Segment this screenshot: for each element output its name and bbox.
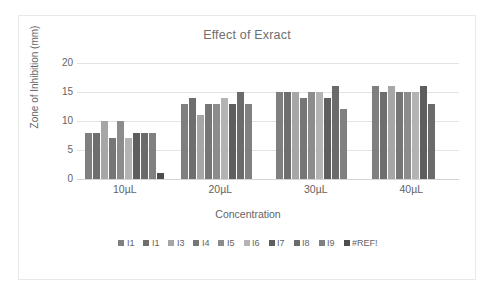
y-axis-tick: 5 bbox=[67, 145, 73, 155]
bar[interactable] bbox=[93, 133, 100, 179]
legend-swatch-icon bbox=[143, 240, 149, 246]
legend-label: #REF! bbox=[352, 238, 378, 248]
legend-item[interactable]: I1 bbox=[118, 238, 134, 248]
bar-groups bbox=[77, 63, 459, 179]
x-axis-tick: 20µL bbox=[173, 183, 269, 195]
bar[interactable] bbox=[396, 92, 403, 179]
legend-swatch-icon bbox=[193, 240, 199, 246]
bar[interactable] bbox=[149, 133, 156, 179]
bar[interactable] bbox=[181, 104, 188, 179]
bar[interactable] bbox=[324, 98, 331, 179]
legend-label: I8 bbox=[302, 238, 310, 248]
bar-group bbox=[77, 63, 173, 179]
bar[interactable] bbox=[388, 86, 395, 179]
chart-frame: Effect of Exract Zone of Inhibition (mm)… bbox=[18, 15, 476, 280]
x-axis-tick: 30µL bbox=[268, 183, 364, 195]
bar[interactable] bbox=[380, 92, 387, 179]
chart-legend: I1I1I3I4I5I6I7I8I9#REF! bbox=[19, 238, 477, 248]
legend-label: I3 bbox=[177, 238, 185, 248]
bar[interactable] bbox=[221, 98, 228, 179]
plot-wrapper: Zone of Inhibition (mm) 05101520 10µL20µ… bbox=[19, 16, 477, 281]
bar[interactable] bbox=[300, 98, 307, 179]
bar[interactable] bbox=[404, 92, 411, 179]
y-axis-tick-labels: 05101520 bbox=[49, 63, 75, 179]
bar-group bbox=[268, 63, 364, 179]
bar[interactable] bbox=[229, 104, 236, 179]
legend-swatch-icon bbox=[294, 240, 300, 246]
bar[interactable] bbox=[117, 121, 124, 179]
bar[interactable] bbox=[237, 92, 244, 179]
bar[interactable] bbox=[205, 104, 212, 179]
legend-swatch-icon bbox=[319, 240, 325, 246]
legend-item[interactable]: I5 bbox=[218, 238, 234, 248]
gridline bbox=[77, 179, 459, 180]
legend-swatch-icon bbox=[344, 240, 350, 246]
bar[interactable] bbox=[372, 86, 379, 179]
plot-area bbox=[77, 63, 459, 179]
y-axis-tick: 10 bbox=[62, 116, 73, 126]
legend-item[interactable]: I4 bbox=[193, 238, 209, 248]
bar[interactable] bbox=[101, 121, 108, 179]
legend-swatch-icon bbox=[218, 240, 224, 246]
bar[interactable] bbox=[141, 133, 148, 179]
legend-swatch-icon bbox=[269, 240, 275, 246]
bar[interactable] bbox=[292, 92, 299, 179]
bar[interactable] bbox=[316, 92, 323, 179]
y-axis-tick: 0 bbox=[67, 174, 73, 184]
legend-item[interactable]: I1 bbox=[143, 238, 159, 248]
bar[interactable] bbox=[340, 109, 347, 179]
y-axis-tick: 15 bbox=[62, 87, 73, 97]
bar[interactable] bbox=[276, 92, 283, 179]
bar-group bbox=[173, 63, 269, 179]
legend-swatch-icon bbox=[244, 240, 250, 246]
legend-label: I7 bbox=[277, 238, 285, 248]
x-axis-tick-labels: 10µL20µL30µL40µL bbox=[77, 183, 459, 195]
legend-label: I9 bbox=[327, 238, 335, 248]
legend-item[interactable]: #REF! bbox=[344, 238, 378, 248]
legend-label: I5 bbox=[227, 238, 235, 248]
bar[interactable] bbox=[189, 98, 196, 179]
bar[interactable] bbox=[213, 104, 220, 179]
bar[interactable] bbox=[85, 133, 92, 179]
legend-item[interactable]: I9 bbox=[319, 238, 335, 248]
bar[interactable] bbox=[133, 133, 140, 179]
legend-label: I4 bbox=[202, 238, 210, 248]
y-axis-tick: 20 bbox=[62, 58, 73, 68]
legend-swatch-icon bbox=[168, 240, 174, 246]
bar[interactable] bbox=[428, 104, 435, 179]
y-axis-title: Zone of Inhibition (mm) bbox=[29, 17, 43, 137]
x-axis-tick: 10µL bbox=[77, 183, 173, 195]
legend-item[interactable]: I8 bbox=[294, 238, 310, 248]
legend-swatch-icon bbox=[118, 240, 124, 246]
bar[interactable] bbox=[332, 86, 339, 179]
bar[interactable] bbox=[245, 104, 252, 179]
legend-label: I1 bbox=[152, 238, 160, 248]
bar[interactable] bbox=[197, 115, 204, 179]
bar[interactable] bbox=[420, 86, 427, 179]
legend-item[interactable]: I3 bbox=[168, 238, 184, 248]
bar[interactable] bbox=[125, 138, 132, 179]
legend-label: I6 bbox=[252, 238, 260, 248]
bar[interactable] bbox=[308, 92, 315, 179]
bar[interactable] bbox=[109, 138, 116, 179]
bar[interactable] bbox=[157, 173, 164, 179]
legend-item[interactable]: I6 bbox=[244, 238, 260, 248]
x-axis-tick: 40µL bbox=[364, 183, 460, 195]
x-axis-title: Concentration bbox=[19, 208, 477, 220]
legend-item[interactable]: I7 bbox=[269, 238, 285, 248]
legend-label: I1 bbox=[127, 238, 135, 248]
bar[interactable] bbox=[412, 92, 419, 179]
bar[interactable] bbox=[284, 92, 291, 179]
bar-group bbox=[364, 63, 460, 179]
